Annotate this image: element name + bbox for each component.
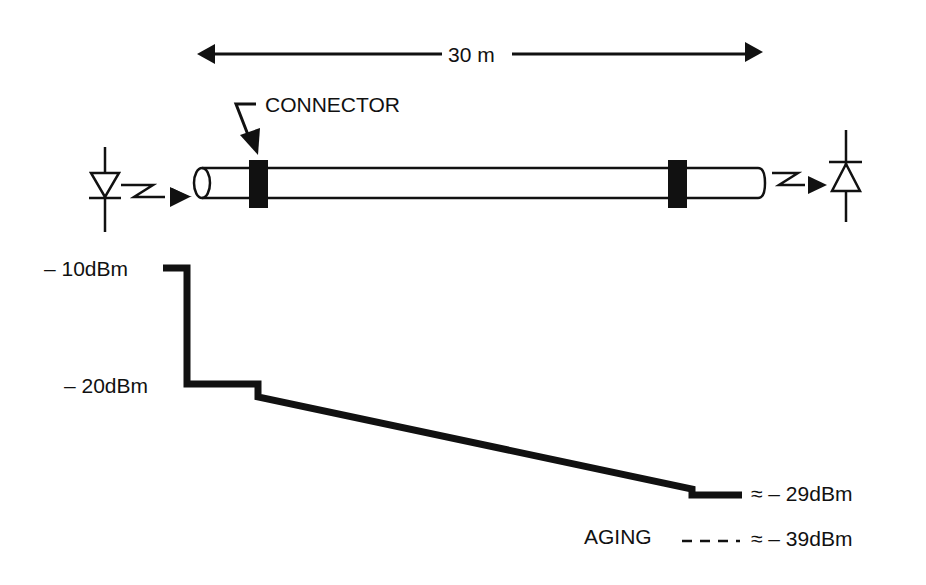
led-source-icon [89, 147, 192, 232]
level-end-label: ≈ – 29dBm [751, 482, 852, 505]
level-aging-label: ≈ – 39dBm [751, 527, 852, 550]
right-arrowhead-icon [745, 42, 763, 62]
connector-left [249, 160, 268, 208]
length-label: 30 m [448, 43, 495, 66]
level-after-coupling-label: – 20dBm [64, 374, 148, 397]
length-dimension: 30 m [197, 42, 763, 66]
aging-label: AGING [584, 525, 652, 548]
power-level-trace [163, 268, 742, 495]
connector-callout: CONNECTOR [236, 93, 400, 155]
level-start-label: – 10dBm [44, 257, 128, 280]
fiber-link-diagram: 30 m CONNECTOR – 10dBm – 20dBm ≈ – 29d [0, 0, 926, 585]
photodiode-receiver-icon [772, 130, 862, 222]
connector-label: CONNECTOR [265, 93, 400, 116]
connector-right [668, 160, 687, 208]
pointer-arrowhead-icon [240, 128, 260, 155]
